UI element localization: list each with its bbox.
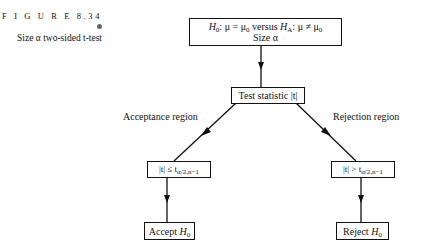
node-reject-condition: |t| > tα/2,n−1: [331, 161, 395, 178]
node-test-statistic: Test statistic |t|: [231, 87, 305, 104]
arrowhead-icon: [164, 195, 170, 203]
node-hypotheses: H0: μ = μ0 versus HA: μ ≠ μ0 Size α: [189, 18, 342, 46]
node-reject-h0: Reject H0: [336, 222, 389, 240]
node-accept-h0: Accept H0: [144, 222, 195, 240]
edge-label-acceptance-region: Acceptance region: [123, 111, 198, 122]
arrowhead-icon: [358, 195, 364, 203]
node-accept-condition: |t| ≤ tα/2,n−1: [147, 161, 211, 178]
hypotheses-line: H0: μ = μ0 versus HA: μ ≠ μ0: [190, 21, 341, 32]
edge-label-rejection-region: Rejection region: [333, 111, 399, 122]
arrowhead-icon: [258, 62, 264, 70]
